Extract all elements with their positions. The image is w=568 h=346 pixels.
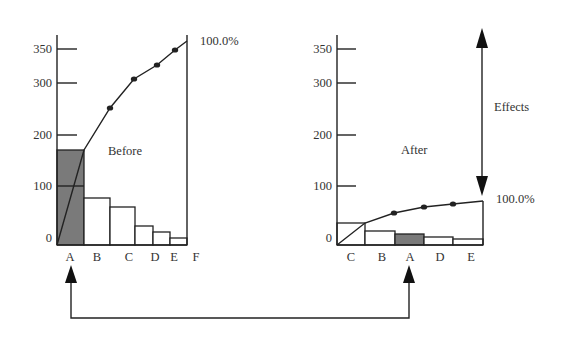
before-point: [131, 76, 137, 81]
after-point: [421, 204, 427, 209]
arrow-up-icon: [403, 265, 415, 283]
after-tick-label: 0: [326, 231, 332, 245]
before-cat-label: D: [150, 250, 159, 264]
after-title: After: [401, 143, 428, 157]
effects-label: Effects: [494, 100, 529, 114]
after-tick-label: 100: [313, 179, 332, 193]
before-bar-C: [110, 207, 135, 245]
after-bar-B: [365, 231, 395, 245]
before-point: [107, 105, 113, 110]
before-cat-label: B: [93, 250, 101, 264]
before-point: [172, 47, 178, 52]
after-cat-label: C: [347, 250, 355, 264]
effects-arrow: Effects: [476, 28, 529, 196]
after-bar-A: [395, 234, 424, 245]
connector-line: [71, 280, 409, 318]
before-bar-B: [84, 198, 110, 245]
after-cat-label: E: [467, 250, 475, 264]
before-bar-D: [135, 226, 153, 245]
before-tick-label: 200: [33, 128, 52, 142]
before-bar-F: [170, 238, 187, 245]
after-bar-D: [424, 237, 453, 245]
before-cat-label: F: [193, 250, 200, 264]
after-cat-label: B: [378, 250, 386, 264]
before-chart: 350 300 200 100 0 100.0% Before A B C D …: [33, 34, 238, 264]
after-tick-label: 350: [313, 42, 332, 56]
before-tick-label: 100: [33, 179, 52, 193]
before-tick-label: 300: [33, 76, 52, 90]
before-bar-E: [153, 232, 170, 245]
before-cumulative-label: 100.0%: [200, 34, 239, 48]
before-cat-label: A: [65, 250, 74, 264]
after-point: [391, 210, 397, 215]
arrow-down-icon: [476, 176, 488, 196]
before-point: [154, 62, 160, 67]
before-tick-label: 350: [33, 42, 52, 56]
after-cumulative-label: 100.0%: [496, 192, 535, 206]
after-cat-label: D: [435, 250, 444, 264]
after-point: [450, 201, 456, 206]
arrow-up-icon: [65, 265, 77, 283]
after-bar-E: [453, 239, 483, 245]
after-cat-label: A: [405, 250, 414, 264]
arrow-up-icon: [476, 28, 488, 48]
before-tick-label: 0: [46, 231, 52, 245]
before-title: Before: [108, 144, 142, 158]
after-tick-label: 300: [313, 76, 332, 90]
before-cat-label: E: [170, 250, 178, 264]
pareto-diagram: 350 300 200 100 0 100.0% Before A B C D …: [0, 0, 568, 346]
connector-arrow: [65, 265, 415, 318]
after-tick-label: 200: [313, 128, 332, 142]
after-chart: 350 300 200 100 0 100.0% After C B A D E: [313, 35, 534, 264]
before-cat-label: C: [125, 250, 133, 264]
